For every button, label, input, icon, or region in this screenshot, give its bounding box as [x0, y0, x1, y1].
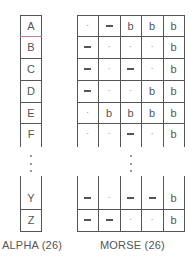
- dash-symbol: [84, 90, 91, 92]
- morse-col-divider: [141, 15, 142, 147]
- morse-cell: b: [163, 123, 184, 145]
- vertical-ellipsis-icon: [130, 163, 132, 165]
- morse-cell: b: [163, 36, 184, 58]
- alpha-row-divider: [20, 15, 42, 16]
- morse-col-divider: [77, 176, 78, 232]
- morse-cell: ·: [98, 80, 120, 102]
- morse-cell: [98, 15, 120, 37]
- morse-col-divider: [120, 15, 121, 147]
- dot-symbol: ·: [108, 65, 111, 73]
- morse-cell: ·: [141, 36, 163, 58]
- morse-cell: ·: [141, 209, 163, 231]
- morse-cell: b: [141, 80, 163, 102]
- alpha-cell-f: F: [20, 123, 42, 145]
- alpha-cell-a: A: [20, 15, 42, 37]
- morse-cell: b: [163, 209, 184, 231]
- dot-symbol: ·: [129, 43, 132, 51]
- morse-cell: ·: [98, 187, 120, 209]
- morse-row-divider: [77, 58, 185, 59]
- morse-label: MORSE (26): [100, 239, 165, 251]
- dash-symbol: [106, 219, 113, 221]
- dot-symbol: ·: [86, 22, 89, 30]
- morse-cell: ·: [77, 15, 98, 37]
- vertical-ellipsis-icon: [130, 155, 132, 157]
- alpha-side-line: [20, 123, 21, 147]
- morse-col-divider: [98, 176, 99, 232]
- dot-symbol: ·: [151, 216, 154, 224]
- alpha-cell-c: C: [20, 58, 42, 80]
- morse-row-divider: [77, 36, 185, 37]
- dash-symbol: [84, 68, 91, 70]
- alpha-label: ALPHA (26): [2, 239, 62, 251]
- morse-cell: ·: [120, 209, 141, 231]
- morse-cell: b: [163, 187, 184, 209]
- morse-col-divider: [141, 176, 142, 232]
- dash-symbol: [127, 197, 134, 199]
- morse-cell: ·: [120, 36, 141, 58]
- alpha-cell-y: Y: [20, 187, 42, 209]
- dot-symbol: ·: [151, 130, 154, 138]
- morse-cell: [98, 209, 120, 231]
- morse-cell: [77, 209, 98, 231]
- morse-col-divider: [184, 15, 185, 147]
- dot-symbol: ·: [86, 109, 89, 117]
- dot-symbol: ·: [108, 43, 111, 51]
- morse-cell: b: [163, 102, 184, 124]
- alpha-cell-z: Z: [20, 209, 42, 231]
- morse-cell: ·: [98, 123, 120, 145]
- morse-row-divider: [77, 80, 185, 81]
- morse-cell: b: [120, 15, 141, 37]
- morse-row-divider: [77, 102, 185, 103]
- morse-col-divider: [163, 15, 164, 147]
- dot-symbol: ·: [129, 87, 132, 95]
- morse-cell: b: [120, 102, 141, 124]
- dot-symbol: ·: [108, 87, 111, 95]
- dot-symbol: ·: [86, 130, 89, 138]
- alpha-side-line: [20, 176, 21, 232]
- morse-cell: b: [141, 15, 163, 37]
- dot-symbol: ·: [151, 65, 154, 73]
- dash-symbol: [84, 46, 91, 48]
- morse-cell: ·: [77, 123, 98, 145]
- morse-cell: ·: [120, 80, 141, 102]
- morse-cell: b: [98, 102, 120, 124]
- morse-col-divider: [163, 176, 164, 232]
- morse-cell: b: [141, 102, 163, 124]
- morse-cell: b: [163, 58, 184, 80]
- morse-cell: [120, 123, 141, 145]
- morse-cell: b: [163, 80, 184, 102]
- dot-symbol: ·: [151, 43, 154, 51]
- dot-symbol: ·: [108, 130, 111, 138]
- alpha-row-divider: [20, 58, 42, 59]
- alpha-row-divider: [20, 80, 42, 81]
- morse-col-divider: [77, 15, 78, 147]
- alpha-cell-e: E: [20, 102, 42, 124]
- morse-cell: ·: [141, 123, 163, 145]
- morse-row-divider: [77, 231, 185, 232]
- dash-symbol: [149, 197, 156, 199]
- alpha-row-divider: [20, 102, 42, 103]
- vertical-ellipsis-icon: [130, 170, 132, 172]
- alpha-row-divider: [20, 231, 42, 232]
- morse-col-divider: [98, 15, 99, 147]
- morse-cell: [120, 187, 141, 209]
- dash-symbol: [84, 219, 91, 221]
- dash-symbol: [106, 25, 113, 27]
- dot-symbol: ·: [129, 216, 132, 224]
- morse-cell: [77, 187, 98, 209]
- alpha-row-divider: [20, 36, 42, 37]
- dot-symbol: ·: [108, 194, 111, 202]
- dash-symbol: [127, 133, 134, 135]
- morse-cell: [120, 58, 141, 80]
- morse-cell: [77, 58, 98, 80]
- alpha-side-line: [41, 123, 42, 147]
- alpha-cell-d: D: [20, 80, 42, 102]
- dash-symbol: [84, 197, 91, 199]
- morse-col-divider: [120, 176, 121, 232]
- alpha-cell-b: B: [20, 36, 42, 58]
- morse-cell: ·: [77, 102, 98, 124]
- morse-cell: ·: [141, 58, 163, 80]
- morse-cell: ·: [98, 36, 120, 58]
- morse-cell: [77, 36, 98, 58]
- morse-cell: [141, 187, 163, 209]
